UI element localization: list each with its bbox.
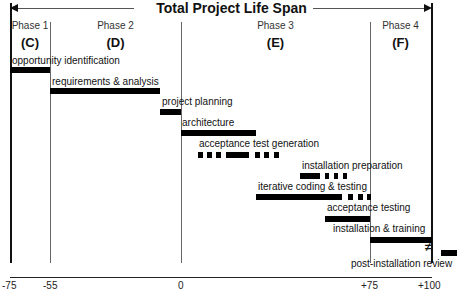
- tick-plus75: +75: [361, 280, 378, 292]
- phase-2-name: Phase 2: [50, 20, 181, 32]
- phase-3-name: Phase 3: [181, 20, 370, 32]
- activity-label-opportunity-identification: opportunity identification: [12, 55, 120, 67]
- activity-label-requirements-analysis: requirements & analysis: [52, 76, 159, 88]
- axis-break-icon: ≠: [425, 240, 432, 254]
- time-axis: [10, 277, 432, 278]
- boundary-plus100: [431, 3, 433, 263]
- activity-label-acceptance-testing: acceptance testing: [327, 202, 410, 214]
- dash-segment: [325, 173, 329, 179]
- diagram-title: Total Project Life Span: [0, 0, 463, 17]
- phase-4-name: Phase 4: [370, 20, 431, 32]
- phase-1-name: Phase 1: [10, 20, 50, 32]
- dash-segment: [343, 173, 347, 179]
- activity-bar-opportunity-identification: [10, 67, 50, 73]
- dash-segment: [255, 152, 260, 158]
- activity-label-project-planning: project planning: [162, 96, 233, 108]
- activity-label-acceptance-test-generation: acceptance test generation: [199, 138, 319, 150]
- activity-bar-iterative-coding-testing: [256, 194, 371, 200]
- solid-segment: [256, 194, 342, 200]
- dash-segment: [264, 152, 269, 158]
- activity-label-installation-training: installation & training: [333, 223, 425, 235]
- dash-segment: [198, 152, 203, 158]
- phase-3-code: (E): [181, 35, 370, 50]
- phase-1-code: (C): [10, 35, 50, 50]
- dash-segment: [367, 194, 371, 200]
- activity-bar-architecture: [181, 130, 256, 136]
- dash-segment: [334, 173, 338, 179]
- activity-label-installation-preparation: installation preparation: [302, 160, 403, 172]
- activity-bar-acceptance-test-generation: [198, 152, 282, 158]
- phase-2-code: (D): [50, 35, 181, 50]
- dash-segment: [300, 173, 320, 179]
- tick-0: 0: [178, 280, 184, 292]
- tick-plus100: +100: [418, 280, 441, 292]
- activity-bar-installation-training: [370, 237, 432, 243]
- activity-label-iterative-coding-testing: iterative coding & testing: [258, 181, 367, 193]
- tick-minus55: -55: [43, 280, 57, 292]
- phase-4-code: (F): [370, 35, 431, 50]
- dash-segment: [207, 152, 212, 158]
- tick-minus75: -75: [2, 280, 16, 292]
- dash-segment: [274, 152, 279, 158]
- activity-bar-project-planning: [160, 109, 181, 115]
- boundary-0: [181, 22, 182, 263]
- activity-bar-requirements-analysis: [50, 88, 160, 94]
- activity-bar-acceptance-testing: [325, 216, 370, 222]
- dash-segment: [216, 152, 221, 158]
- dash-segment: [358, 194, 363, 200]
- activity-label-post-installation-review: post-installation review: [351, 258, 452, 270]
- dash-segment: [226, 152, 249, 158]
- activity-label-architecture: architecture: [182, 117, 234, 129]
- diagram-title-text: Total Project Life Span: [150, 0, 313, 16]
- dash-segment: [348, 194, 353, 200]
- activity-bar-post-installation-review: [441, 250, 457, 256]
- activity-bar-installation-preparation: [300, 173, 348, 179]
